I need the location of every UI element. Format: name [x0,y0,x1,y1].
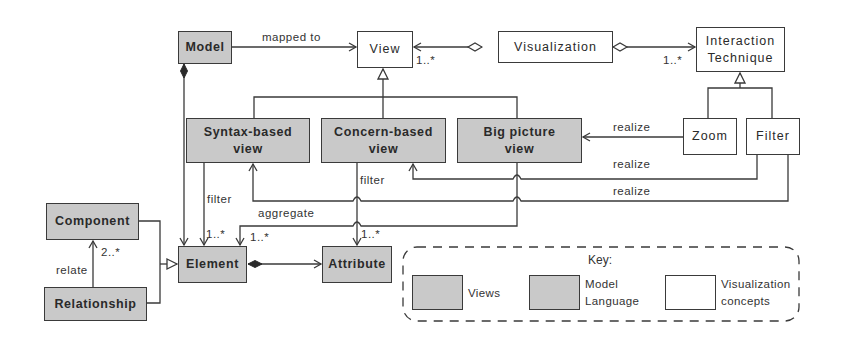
node-zoom: Zoom [683,118,737,155]
legend-label-line1: Visualization [721,276,791,293]
node-attribute: Attribute [322,246,392,283]
edge-mult-aggregate-element: 1..* [250,231,269,243]
edge-label-realize-filter-concern: realize [613,158,650,170]
legend-title: Key: [588,253,612,267]
edge-label-filter-concern: filter [360,174,385,186]
node-visualization: Visualization [498,31,613,63]
node-label-line1: Concern-based [334,124,433,141]
edge-label-realize-filter-syntax: realize [613,185,650,197]
node-label: Model [185,39,224,56]
edge-label-mapped-to: mapped to [262,31,321,43]
node-filter: Filter [746,118,800,155]
legend-label-line1: Model [585,276,639,293]
edge-mult-interaction: 1..* [663,54,682,66]
node-interaction-technique: Interaction Technique [696,27,785,72]
node-big-picture-view: Big picture view [457,118,582,163]
node-label-line1: Big picture [484,124,556,141]
edge-label-filter-syntax: filter [207,193,232,205]
node-label-line2: view [369,141,399,158]
node-label-line2: view [233,141,263,158]
node-label: Attribute [328,256,385,273]
node-label: Element [186,256,239,273]
edge-label-realize-zoom: realize [613,121,650,133]
node-syntax-based-view: Syntax-based view [186,118,310,163]
edge-label-relate: relate [56,264,88,276]
node-label-line1: Interaction [706,33,775,50]
node-model: Model [178,31,232,64]
edge-mult-view: 1..* [416,54,435,66]
legend-label-model-language: Model Language [585,276,639,310]
legend-label-line2: concepts [721,293,791,310]
node-label: Visualization [514,39,597,56]
legend-swatch-views [412,275,463,310]
legend-swatch-model-language [529,275,580,310]
node-label: Component [55,213,130,230]
node-label-line1: Syntax-based [204,124,292,141]
node-component: Component [46,203,139,240]
legend-label-line2: Language [585,293,639,310]
node-view: View [357,31,413,68]
legend-label-visualization-concepts: Visualization concepts [721,276,791,310]
legend-swatch-visualization-concepts [665,275,716,310]
node-label-line2: Technique [708,50,774,67]
node-label: Relationship [54,296,136,313]
edge-mult-attribute: 1..* [361,228,380,240]
legend-label-views: Views [468,285,500,302]
node-label: Filter [756,128,790,145]
edge-mult-syntax-element: 1..* [206,228,225,240]
node-relationship: Relationship [44,287,147,321]
node-label: Zoom [692,128,728,145]
edge-label-aggregate: aggregate [258,207,314,219]
node-element: Element [178,246,247,283]
edge-mult-relate: 2..* [101,246,120,258]
node-label-line2: view [505,141,535,158]
node-concern-based-view: Concern-based view [321,118,446,163]
node-label: View [370,41,401,58]
